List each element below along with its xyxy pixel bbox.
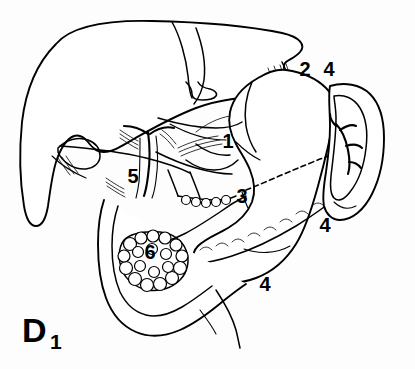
lobule [212,198,221,207]
callout-label-1: 1 [222,130,233,152]
panel-subscript: 1 [50,330,62,353]
panel-letter: D [22,311,47,349]
lobule [182,196,191,205]
callout-label-3: 3 [236,185,247,207]
figure-container: 1 2 3 4 4 4 5 6 D 1 [0,0,415,369]
lobule [154,278,167,291]
lobule [120,262,133,275]
lobule [118,250,130,262]
lobule [170,239,182,251]
uncinate-strip [178,196,236,208]
lobule [161,249,172,260]
lobule [166,272,179,285]
connecting-contours [168,144,238,198]
hepatic-artery [152,136,158,198]
callout-label-4-upper: 4 [323,58,335,80]
lobule [133,247,144,258]
callout-label-5: 5 [127,165,138,187]
lobule [163,262,174,273]
lobule [202,199,211,208]
lobule [176,250,188,262]
callout-label-2: 2 [299,58,310,80]
lobule [149,267,160,278]
callout-label-6: 6 [144,241,155,263]
spleen-group [323,84,384,220]
vessel-hatch-5 [160,134,174,148]
lobule [222,196,231,205]
lobule [129,273,142,286]
liver-caudate-lobe [58,138,100,169]
callout-label-4-right: 4 [319,214,331,236]
lobule [192,198,201,207]
pylorus-contour [168,170,178,196]
anatomy-line-drawing: 1 2 3 4 4 4 5 6 D 1 [0,0,415,369]
duodenal-bulb [186,160,238,170]
lobule [141,279,154,292]
callout-label-4-lower: 4 [259,273,271,295]
pylorus-contour-2 [190,172,200,198]
panel-identifier: D 1 [22,311,62,353]
lobule [159,232,171,244]
portal-vein-trunk [144,132,150,196]
spleen-outer-outline [323,84,384,220]
